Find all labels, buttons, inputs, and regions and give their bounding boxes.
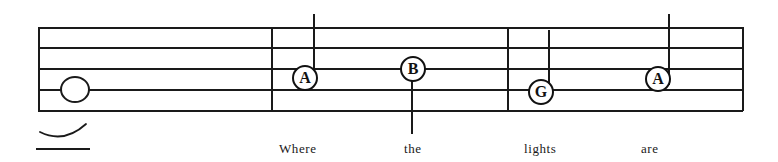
whole-note-head-icon <box>60 76 90 103</box>
note-marker-b-1[interactable]: B <box>400 56 426 82</box>
staff-left-edge <box>38 27 40 111</box>
barline-1 <box>271 27 273 111</box>
staff-line-4 <box>38 89 743 91</box>
staff-line-3 <box>38 68 743 70</box>
staff-line-5 <box>38 110 743 112</box>
note-letter-label: A <box>652 71 664 87</box>
lyric-word-the: the <box>404 141 422 157</box>
note-letter-label: B <box>408 61 419 77</box>
lyric-word-where: Where <box>279 141 317 157</box>
lyric-word-lights: lights <box>524 141 557 157</box>
tie-slur-icon <box>36 106 116 140</box>
lyric-word-are: are <box>641 141 659 157</box>
staff-line-2 <box>38 47 743 49</box>
note-marker-a-2[interactable]: A <box>645 66 671 92</box>
music-score-canvas: A B G A Where the lights are <box>0 0 778 162</box>
lyric-extender-line <box>36 148 90 150</box>
note-marker-g-1[interactable]: G <box>528 79 554 105</box>
barline-2 <box>507 27 509 111</box>
note-letter-label: G <box>535 84 547 100</box>
note-marker-a-1[interactable]: A <box>292 65 318 91</box>
note-letter-label: A <box>299 70 311 86</box>
staff-right-edge <box>742 27 744 111</box>
staff-line-1 <box>38 27 743 29</box>
